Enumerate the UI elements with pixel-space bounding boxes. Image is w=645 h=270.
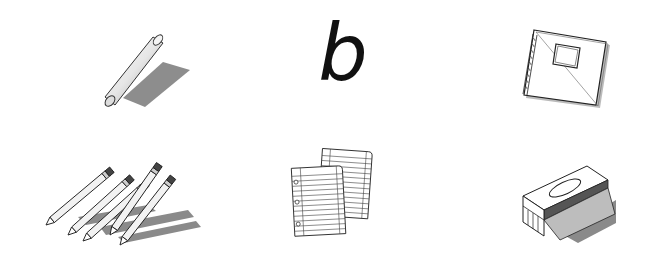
paper-sheets-illustration — [288, 145, 373, 240]
eraser-illustration — [520, 158, 620, 243]
chalk-illustration — [95, 25, 195, 110]
notebook-illustration — [518, 20, 613, 110]
pencils-illustration — [38, 155, 203, 250]
letter-b: b — [318, 18, 368, 88]
